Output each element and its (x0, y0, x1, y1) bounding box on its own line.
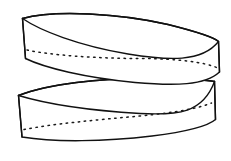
two-bands-drawing (0, 0, 231, 161)
figure-canvas: Two crossing elliptical bands Hand-drawn… (0, 0, 231, 161)
